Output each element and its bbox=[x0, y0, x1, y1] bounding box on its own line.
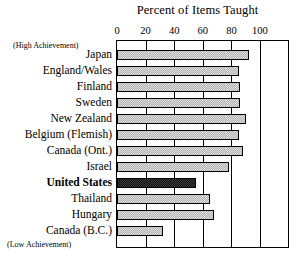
bars-layer bbox=[117, 41, 288, 247]
high-achievement-note: (High Achievement) bbox=[13, 41, 79, 51]
category-label: Thailand bbox=[0, 192, 112, 204]
bar bbox=[117, 130, 239, 140]
category-label: Belgium (Flemish) bbox=[0, 128, 112, 140]
x-tick-label: 60 bbox=[198, 25, 209, 37]
bar bbox=[117, 82, 240, 92]
category-label: Canada (B.C.) bbox=[0, 224, 112, 236]
bar bbox=[117, 50, 249, 60]
bar bbox=[117, 146, 243, 156]
category-label: Sweden bbox=[0, 96, 112, 108]
bar bbox=[117, 226, 163, 236]
bar bbox=[117, 98, 240, 108]
category-label: Israel bbox=[0, 160, 112, 172]
category-label: England/Wales bbox=[0, 64, 112, 76]
x-tick-label: 0 bbox=[114, 25, 119, 37]
bar bbox=[117, 178, 196, 188]
x-tick-label: 40 bbox=[169, 25, 180, 37]
x-tick-label: 80 bbox=[226, 25, 237, 37]
category-label: Hungary bbox=[0, 208, 112, 220]
x-tick-label: 100 bbox=[252, 25, 268, 37]
chart-title: Percent of Items Taught bbox=[100, 3, 295, 18]
x-axis-tick-labels: 020406080100 bbox=[0, 25, 301, 39]
bar bbox=[117, 162, 229, 172]
category-label: Canada (Ont.) bbox=[0, 144, 112, 156]
plot-area bbox=[116, 40, 289, 248]
bar bbox=[117, 114, 246, 124]
bar-chart: Percent of Items Taught 020406080100 Jap… bbox=[0, 0, 301, 270]
bar bbox=[117, 194, 210, 204]
category-label: Finland bbox=[0, 80, 112, 92]
category-label: New Zealand bbox=[0, 112, 112, 124]
bar bbox=[117, 66, 239, 76]
category-labels: JapanEngland/WalesFinlandSwedenNew Zeala… bbox=[0, 40, 112, 248]
bar bbox=[117, 210, 214, 220]
category-label: United States bbox=[0, 176, 112, 188]
x-tick-label: 20 bbox=[140, 25, 151, 37]
low-achievement-note: (Low Achievement) bbox=[7, 240, 71, 250]
